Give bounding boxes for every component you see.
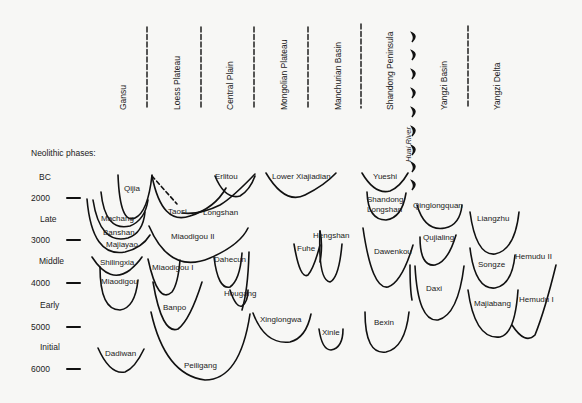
culture-label-songze: Songze (478, 260, 505, 269)
culture-label-xinle: Xinle (322, 328, 340, 337)
tick-label-4000: 4000 (31, 278, 50, 288)
region-label-shandong-peninsula: Shandong Peninsula (385, 32, 395, 110)
culture-label-shandong-longshan: Longshan (367, 205, 402, 214)
culture-label-longshan: Longshan (203, 208, 238, 217)
phase-label-initial: Initial (40, 342, 60, 352)
culture-label-liangzhu: Liangzhu (477, 214, 509, 223)
culture-label-majiabang: Majiabang (474, 299, 511, 308)
region-label-manchurian-basin: Manchurian Basin (333, 42, 343, 110)
culture-label-hemudu-ii: Hemudu II (515, 252, 552, 261)
region-label-yangzi-delta: Yangzi Delta (492, 62, 502, 110)
culture-label-lower-xiajiadian: Lower Xiajiadian (272, 172, 331, 181)
culture-label-qijia: Qijia (124, 184, 140, 193)
culture-label-hemudu-i: Hemudu I (519, 295, 554, 304)
region-label-loess-plateau: Loess Plateau (172, 56, 182, 110)
culture-label-shilingxia: Shilingxia (100, 258, 134, 267)
culture-label-dawenkou: Dawenkou (374, 247, 412, 256)
region-label-mongolian-plateau: Mongolian Plateau (279, 40, 289, 110)
tick-label-2000: 2000 (31, 193, 50, 203)
culture-label-xinglongwa: Xinglongwa (260, 315, 301, 324)
culture-label-qujialing: Qujialing (423, 233, 454, 242)
huai-river-marks (412, 33, 415, 190)
culture-label-qinglongquan: Qinglongquan (413, 201, 463, 210)
culture-label-miaodigou-i: Miaodigou I (152, 263, 193, 272)
culture-label-peiligang: Peiligang (184, 361, 217, 370)
phase-label-early: Early (40, 300, 59, 310)
time-ticks (67, 198, 80, 369)
region-dividers (147, 24, 468, 108)
culture-label-dahecun: Dahecun (214, 255, 246, 264)
culture-label-majiayao: Majiayao (106, 240, 138, 249)
region-label-gansu: Gansu (118, 85, 128, 110)
tick-label-6000: 6000 (31, 364, 50, 374)
culture-label-fuhe: Fuhe (297, 244, 315, 253)
culture-label-hougang: Hougang (224, 289, 256, 298)
region-label-central-plain: Central Plain (225, 61, 235, 110)
culture-label-daxi: Daxi (426, 284, 442, 293)
region-label-yangzi-basin: Yangzi Basin (439, 61, 449, 110)
tick-label-3000: 3000 (31, 235, 50, 245)
diagram-lines (0, 0, 582, 403)
culture-label-miaodigou: Miaodigou (101, 277, 138, 286)
phase-label-late: Late (40, 214, 57, 224)
tick-label-5000: 5000 (31, 322, 50, 332)
culture-label-hengshan: Hengshan (313, 231, 349, 240)
culture-label-erlitou: Erlitou (215, 172, 238, 181)
phase-label-middle: Middle (39, 256, 64, 266)
culture-label-yueshi: Yueshi (373, 172, 397, 181)
culture-label-banpo: Banpo (163, 303, 186, 312)
huai-river-label: Huai River (404, 127, 413, 162)
era-label: BC (39, 172, 51, 182)
neolithic-chronology-diagram: Gansu Loess Plateau Central Plain Mongol… (0, 0, 582, 403)
culture-label-dadiwan: Dadiwan (105, 349, 136, 358)
diagram-title: Neolithic phases: (31, 148, 96, 158)
culture-label-machang: Machang (101, 214, 134, 223)
culture-label-taosi: Taosi (168, 207, 187, 216)
culture-label-miaodigou-ii: Miaodigou II (171, 232, 215, 241)
culture-label-bexin: Bexin (374, 318, 394, 327)
culture-label-shandong: Shandong (367, 195, 403, 204)
culture-label-banshan: Banshan (103, 228, 135, 237)
